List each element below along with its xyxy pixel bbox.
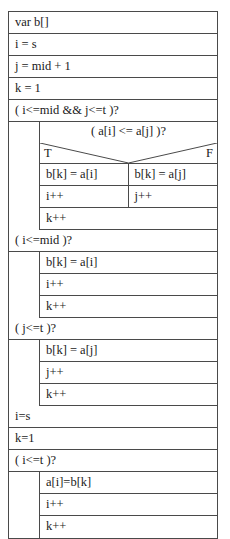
statement-block: k++ [40,516,217,538]
statement-block: k=1 [9,428,217,450]
decision-triangle-lines [40,143,217,163]
decision-block: ( a[i] <= a[j] )? T F b[k] = a[i] b[k] =… [40,122,217,208]
statement-block: i=s [9,406,217,428]
loop-block-drain-left: ( i<=mid )? b[k] = a[i] i++ k++ [9,230,217,318]
true-branch-statement: i++ [40,186,129,207]
false-branch-statement: b[k] = a[j] [129,164,218,185]
statement-block: k++ [40,208,217,230]
statement-block: k++ [40,296,217,318]
loop-block-merge: ( i<=mid && j<=t )? ( a[i] <= a[j] )? T … [9,100,217,230]
branch-row: b[k] = a[i] b[k] = a[j] [40,164,217,186]
statement-block: k++ [40,384,217,406]
loop-body: ( a[i] <= a[j] )? T F b[k] = a[i] b[k] =… [39,122,217,230]
decision-false-label: F [206,144,213,162]
statement-block: i++ [40,274,217,296]
statement-block: k = 1 [9,78,217,100]
statement-block: j = mid + 1 [9,56,217,78]
statement-block: i = s [9,34,217,56]
loop-body: b[k] = a[j] j++ k++ [39,340,217,406]
loop-body: b[k] = a[i] i++ k++ [39,252,217,318]
loop-condition: ( i<=mid && j<=t )? [9,100,217,122]
statement-block: a[i]=b[k] [40,472,217,494]
loop-block-drain-right: ( j<=t )? b[k] = a[j] j++ k++ [9,318,217,406]
statement-block: b[k] = a[j] [40,340,217,362]
loop-condition: ( i<=t )? [9,450,217,472]
decision-true-label: T [44,144,52,162]
branch-row: i++ j++ [40,186,217,208]
loop-block-copyback: ( i<=t )? a[i]=b[k] i++ k++ [9,450,217,538]
structogram-diagram: var b[] i = s j = mid + 1 k = 1 ( i<=mid… [8,11,218,539]
true-branch-statement: b[k] = a[i] [40,164,129,185]
false-branch-statement: j++ [129,186,218,207]
loop-condition: ( j<=t )? [9,318,217,340]
statement-block: var b[] [9,12,217,34]
statement-block: b[k] = a[i] [40,252,217,274]
loop-condition: ( i<=mid )? [9,230,217,252]
loop-body: a[i]=b[k] i++ k++ [39,472,217,538]
statement-block: j++ [40,362,217,384]
statement-block: i++ [40,494,217,516]
decision-triangle: T F [40,143,217,164]
decision-question: ( a[i] <= a[j] )? [40,122,217,143]
